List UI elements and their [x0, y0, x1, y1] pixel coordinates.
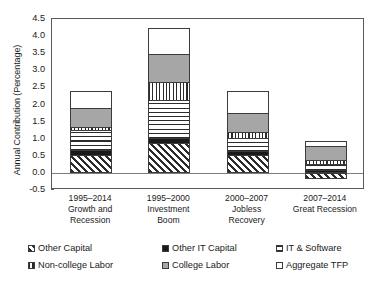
legend-item-label: IT & Software: [286, 243, 342, 253]
y-tick-label: 0.0: [7, 167, 51, 177]
legend-item[interactable]: Aggregate TFP: [276, 260, 348, 270]
y-tick-label: 3.0: [7, 64, 51, 74]
chart-legend: Other CapitalOther IT CapitalIT & Softwa…: [28, 243, 366, 279]
bar-segment: [70, 91, 112, 107]
bar-segment: [148, 138, 190, 143]
bar-stack[interactable]: [227, 19, 269, 190]
bar-segment: [70, 130, 112, 150]
bar-segment: [305, 170, 347, 173]
bar-segment: [148, 28, 190, 55]
bar-segment: [305, 141, 347, 145]
y-tick-label: 1.5: [7, 116, 51, 126]
legend-swatch-icon: [28, 245, 35, 252]
bar-segment: [70, 155, 112, 173]
bar-stack[interactable]: [305, 19, 347, 190]
bar-segment: [305, 160, 347, 164]
legend-item[interactable]: Other Capital: [28, 243, 92, 253]
legend-item-label: Non-college Labor: [38, 260, 113, 270]
y-tick-label: 4.0: [7, 30, 51, 40]
legend-swatch-icon: [276, 245, 283, 252]
bar-segment: [148, 100, 190, 138]
stacked-bar-chart-figure: Annual Contribution (Percentage) 4.54.03…: [0, 0, 372, 287]
bar-segment: [148, 54, 190, 82]
y-tick-label: 3.5: [7, 47, 51, 57]
bar-segment: [305, 173, 347, 179]
y-tick-label: 0.5: [7, 150, 51, 160]
bar-stack[interactable]: [70, 19, 112, 190]
legend-item[interactable]: Other IT Capital: [162, 243, 237, 253]
bar-segment: [227, 151, 269, 155]
plot-area: [51, 18, 364, 189]
bar-segment: [70, 150, 112, 154]
legend-item-label: Other Capital: [38, 243, 92, 253]
y-tick-mark: [51, 189, 54, 190]
y-tick-label: 1.0: [7, 133, 51, 143]
legend-item-label: College Labor: [172, 260, 229, 270]
y-tick-label: 2.0: [7, 99, 51, 109]
y-tick-label: 4.5: [7, 13, 51, 23]
bar-segment: [305, 146, 347, 160]
legend-item-label: Aggregate TFP: [286, 260, 348, 270]
bar-segment: [70, 127, 112, 130]
bar-segment: [227, 91, 269, 114]
x-category-label: 2007–2014 Great Recession: [277, 193, 372, 215]
bar-segment: [148, 82, 190, 100]
legend-swatch-icon: [162, 245, 169, 252]
legend-swatch-icon: [276, 262, 283, 269]
bar-segment: [227, 113, 269, 132]
legend-item[interactable]: Non-college Labor: [28, 260, 113, 270]
bar-stack[interactable]: [148, 19, 190, 190]
bar-segment: [70, 108, 112, 127]
legend-item[interactable]: IT & Software: [276, 243, 342, 253]
legend-item-label: Other IT Capital: [172, 243, 237, 253]
bar-segment: [227, 138, 269, 150]
bar-segment: [148, 143, 190, 172]
bar-segment: [227, 132, 269, 138]
bar-segment: [227, 155, 269, 173]
legend-item[interactable]: College Labor: [162, 260, 229, 270]
bar-segment: [305, 164, 347, 170]
y-tick-label: 2.5: [7, 81, 51, 91]
legend-swatch-icon: [162, 262, 169, 269]
legend-swatch-icon: [28, 262, 35, 269]
